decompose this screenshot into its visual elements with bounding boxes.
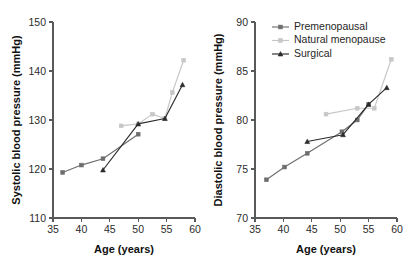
x-tick-label: 55 [363, 223, 375, 235]
x-tick-label: 40 [278, 223, 290, 235]
series-line-premenopausal [63, 134, 139, 172]
x-tick-label: 55 [161, 223, 173, 235]
data-point-marker [180, 82, 185, 86]
figure-root: 110120130140150354045505560Age (years)Sy… [0, 0, 415, 269]
data-point-marker [372, 106, 376, 110]
data-point-marker [151, 112, 155, 116]
y-tick-label: 140 [28, 65, 46, 77]
data-point-marker [264, 178, 268, 182]
y-tick-label: 150 [28, 16, 46, 28]
y-tick-label: 80 [236, 114, 248, 126]
x-tick-label: 40 [76, 223, 88, 235]
legend-marker-glyph [279, 25, 283, 29]
data-point-marker [324, 112, 328, 116]
data-point-marker [355, 106, 359, 110]
diastolic-chart-svg: 7075808590354045505560Age (years)Diastol… [207, 0, 415, 269]
data-point-marker [101, 157, 105, 161]
x-tick-label: 50 [132, 223, 144, 235]
y-tick-label: 130 [28, 114, 46, 126]
data-point-marker [389, 57, 393, 61]
y-axis-title: Diastolic blood pressure (mmHg) [212, 33, 224, 206]
systolic-chart-svg: 110120130140150354045505560Age (years)Sy… [0, 0, 208, 269]
series-line-natural-menopause [326, 59, 391, 114]
x-axis-title: Age (years) [296, 243, 356, 255]
series-line-premenopausal [266, 104, 368, 179]
y-tick-label: 75 [236, 163, 248, 175]
data-point-marker [182, 58, 186, 62]
data-point-marker [119, 124, 123, 128]
legend-label-natural-menopause: Natural menopause [294, 33, 386, 45]
data-point-marker [305, 151, 309, 155]
x-tick-label: 35 [249, 223, 261, 235]
legend-marker-glyph [279, 39, 283, 43]
y-axis-title: Systolic blood pressure (mmHg) [10, 35, 22, 205]
x-tick-label: 60 [189, 223, 201, 235]
data-point-marker [136, 132, 140, 136]
x-tick-label: 45 [104, 223, 116, 235]
y-tick-label: 120 [28, 163, 46, 175]
x-tick-label: 60 [391, 223, 403, 235]
y-tick-label: 70 [236, 212, 248, 224]
chart-panel-diastolic: 7075808590354045505560Age (years)Diastol… [207, 0, 415, 269]
y-tick-label: 85 [236, 65, 248, 77]
legend-label-surgical: Surgical [294, 47, 332, 59]
data-point-marker [384, 85, 389, 89]
legend-label-premenopausal: Premenopausal [294, 20, 368, 32]
data-point-marker [170, 91, 174, 95]
y-tick-label: 90 [236, 16, 248, 28]
x-tick-label: 35 [47, 223, 59, 235]
series-line-surgical [307, 88, 387, 142]
x-tick-label: 45 [306, 223, 318, 235]
x-tick-label: 50 [334, 223, 346, 235]
chart-panel-systolic: 110120130140150354045505560Age (years)Sy… [0, 0, 208, 269]
data-point-marker [80, 163, 84, 167]
data-point-marker [283, 165, 287, 169]
data-point-marker [61, 171, 65, 175]
y-tick-label: 110 [29, 212, 46, 224]
x-axis-title: Age (years) [94, 243, 154, 255]
